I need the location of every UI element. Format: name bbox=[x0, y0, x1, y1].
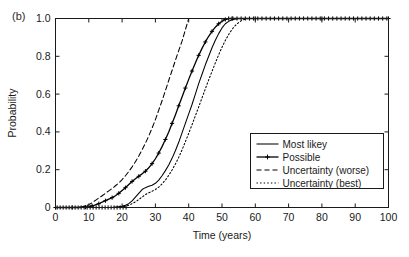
x-tick-label: 100 bbox=[380, 211, 398, 223]
legend-label-2: Uncertainty (worse) bbox=[283, 165, 370, 176]
x-axis-tick-labels: 0102030405060708090100 bbox=[53, 211, 398, 223]
chart-legend[interactable]: Most likeyPossibleUncertainty (worse)Unc… bbox=[251, 134, 384, 189]
y-tick-label: 0.2 bbox=[36, 163, 51, 175]
y-tick-label: 1.0 bbox=[36, 12, 51, 24]
x-tick-label: 60 bbox=[249, 211, 261, 223]
x-tick-label: 0 bbox=[53, 211, 59, 223]
legend-label-0: Most likey bbox=[283, 139, 327, 150]
series-marker-plus bbox=[197, 53, 201, 57]
series-marker-plus bbox=[103, 199, 107, 203]
series-marker-plus bbox=[190, 69, 194, 73]
series-marker-plus bbox=[177, 104, 181, 108]
x-axis-title: Time (years) bbox=[193, 229, 252, 241]
x-tick-label: 80 bbox=[316, 211, 328, 223]
x-tick-label: 40 bbox=[183, 211, 195, 223]
y-axis-title: Probability bbox=[6, 88, 18, 138]
series-marker-plus bbox=[97, 202, 101, 206]
y-tick-label: 0.6 bbox=[36, 88, 51, 100]
chart-canvas: 0102030405060708090100 00.20.40.60.81.0 … bbox=[0, 0, 409, 257]
x-tick-label: 70 bbox=[283, 211, 295, 223]
chart-plot-area: 0102030405060708090100 00.20.40.60.81.0 … bbox=[0, 0, 409, 257]
y-tick-label: 0.8 bbox=[36, 50, 51, 62]
y-tick-label: 0 bbox=[45, 201, 51, 213]
y-tick-label: 0.4 bbox=[36, 125, 51, 137]
series-marker-plus bbox=[170, 121, 174, 125]
series-marker-plus bbox=[163, 137, 167, 141]
y-axis-tick-labels: 00.20.40.60.81.0 bbox=[36, 12, 51, 213]
x-tick-label: 30 bbox=[150, 211, 162, 223]
series-marker-plus bbox=[183, 86, 187, 90]
x-tick-label: 50 bbox=[216, 211, 228, 223]
legend-label-1: Possible bbox=[283, 152, 321, 163]
x-tick-label: 20 bbox=[116, 211, 128, 223]
figure-panel-b: (b) 0102030405060708090100 00.20.40.60.8… bbox=[0, 0, 409, 257]
legend-label-3: Uncertainty (best) bbox=[283, 178, 362, 189]
x-tick-label: 90 bbox=[349, 211, 361, 223]
x-tick-label: 10 bbox=[83, 211, 95, 223]
